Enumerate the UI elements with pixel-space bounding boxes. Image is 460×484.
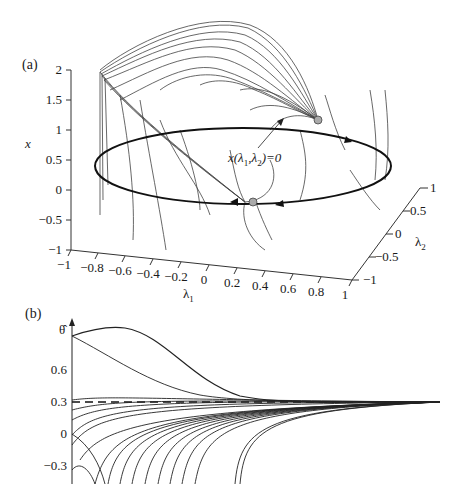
svg-text:−0.5: −0.5 (38, 212, 62, 227)
panel-b-label: (b) (25, 306, 42, 322)
z-axis-label: x (24, 136, 31, 151)
b-y-axis-arrow (69, 318, 75, 326)
x-axis-label: λ1 (183, 286, 194, 304)
svg-text:−1: −1 (48, 242, 62, 257)
trajectories-3d (100, 21, 388, 250)
svg-text:0.2: 0.2 (224, 275, 240, 290)
svg-text:0.6: 0.6 (51, 362, 68, 377)
svg-text:0.5: 0.5 (46, 152, 62, 167)
annotation-pointer (258, 120, 282, 148)
svg-text:2: 2 (56, 62, 63, 77)
svg-text:−0.5: −0.5 (375, 249, 399, 264)
b-y-axis-label: θ̂ (59, 322, 68, 337)
svg-text:−0.6: −0.6 (108, 263, 132, 278)
svg-text:1: 1 (56, 122, 63, 137)
svg-text:0: 0 (395, 226, 402, 241)
trajectories-2d (72, 327, 440, 484)
y-axis-ticks: −1 −0.5 0 0.5 1 (363, 180, 437, 287)
equilibrium-point-1 (314, 116, 322, 124)
svg-text:−0.8: −0.8 (80, 260, 104, 275)
svg-text:0: 0 (61, 426, 68, 441)
svg-text:−1: −1 (363, 272, 377, 287)
svg-text:0.4: 0.4 (252, 278, 269, 293)
b-y-ticks: 0.6 0.3 0 −0.3 (43, 362, 67, 473)
figure-canvas: (a) 2 1.5 1 0.5 0 −0.5 −1 x −1 −0 (0, 0, 460, 484)
svg-text:−0.3: −0.3 (43, 458, 67, 473)
z-axis (66, 70, 71, 250)
svg-text:−1: −1 (57, 257, 71, 272)
svg-text:0.3: 0.3 (51, 394, 67, 409)
svg-text:1: 1 (342, 287, 349, 302)
svg-text:−0.4: −0.4 (136, 266, 160, 281)
svg-text:0.5: 0.5 (410, 203, 426, 218)
panel-a-label: (a) (22, 57, 38, 73)
svg-text:−0.2: −0.2 (164, 269, 188, 284)
equilibrium-point-2 (249, 198, 257, 206)
svg-text:0.6: 0.6 (280, 281, 297, 296)
y-axis-label: λ2 (415, 234, 426, 252)
svg-text:1.5: 1.5 (46, 92, 62, 107)
z-axis-ticks: 2 1.5 1 0.5 0 −0.5 −1 (38, 62, 62, 257)
svg-text:1: 1 (430, 180, 437, 195)
svg-text:0.8: 0.8 (308, 284, 324, 299)
svg-text:0: 0 (56, 182, 63, 197)
svg-text:0: 0 (201, 272, 208, 287)
annotation-label: x(λ1,λ2)=0 (227, 150, 282, 168)
